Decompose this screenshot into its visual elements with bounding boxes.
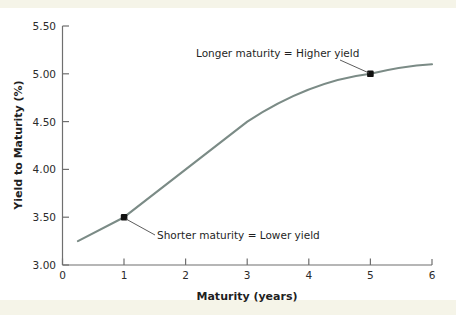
- marker-long-maturity: [367, 71, 374, 78]
- yield-curve-line: [78, 64, 432, 241]
- shorter-maturity-annotation-text: Shorter maturity = Lower yield: [157, 229, 320, 241]
- chart-figure: 5.50 5.00 4.50 4.00 3.50 3.00 0 1 2 3 4 …: [0, 0, 456, 315]
- shorter-maturity-leader-line: [126, 219, 155, 235]
- longer-maturity-annotation: Longer maturity = Higher yield: [196, 47, 369, 73]
- y-tick-label-300: 3.00: [33, 259, 56, 271]
- x-tick-label-5: 5: [367, 269, 374, 281]
- x-tick-label-3: 3: [244, 269, 251, 281]
- x-tick-label-1: 1: [121, 269, 128, 281]
- y-tick-label-500: 5.00: [33, 68, 56, 80]
- y-tick-label-450: 4.50: [33, 116, 56, 128]
- yield-curve-chart: 5.50 5.00 4.50 4.00 3.50 3.00 0 1 2 3 4 …: [0, 0, 456, 315]
- y-tick-label-400: 4.00: [33, 163, 56, 175]
- y-tick-label-350: 3.50: [33, 211, 56, 223]
- x-tick-label-6: 6: [429, 269, 436, 281]
- longer-maturity-annotation-text: Longer maturity = Higher yield: [196, 47, 359, 59]
- x-axis-title: Maturity (years): [197, 290, 298, 303]
- x-ticks-group: [63, 259, 371, 266]
- y-ticks-group: [63, 26, 70, 265]
- longer-maturity-leader-line: [340, 60, 369, 73]
- shorter-maturity-annotation: Shorter maturity = Lower yield: [126, 219, 320, 241]
- x-tick-label-2: 2: [182, 269, 189, 281]
- x-tick-label-4: 4: [305, 269, 312, 281]
- y-axis-title: Yield to Maturity (%): [12, 80, 25, 210]
- y-tick-labels-group: 5.50 5.00 4.50 4.00 3.50 3.00: [33, 20, 56, 271]
- y-tick-label-550: 5.50: [33, 20, 56, 32]
- x-tick-labels-group: 0 1 2 3 4 5 6: [59, 269, 436, 281]
- x-tick-label-0: 0: [59, 269, 66, 281]
